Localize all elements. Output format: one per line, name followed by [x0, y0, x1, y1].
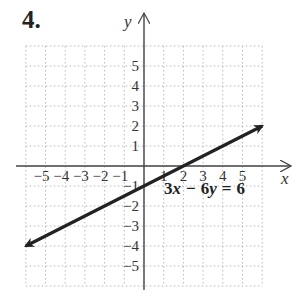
- y-tick-label: −5: [123, 258, 139, 274]
- y-tick-label: −4: [123, 238, 139, 254]
- y-axis-label: y: [122, 12, 132, 31]
- x-axis-label: x: [280, 169, 289, 188]
- axes: [16, 14, 290, 290]
- x-tick-label: −5: [34, 168, 50, 184]
- x-tick-label: −3: [73, 168, 89, 184]
- y-tick-label: 1: [132, 138, 140, 154]
- equation-label: 3x−6y=6: [164, 179, 245, 198]
- y-tick-label: 2: [132, 118, 140, 134]
- x-tick-label: −2: [93, 168, 109, 184]
- y-tick-label: 3: [132, 98, 140, 114]
- y-tick-label: −2: [123, 198, 139, 214]
- coordinate-plane: −5−4−3−2−11234554321−1−2−3−4−5 x y 3x−6y…: [0, 0, 303, 302]
- y-tick-label: 4: [132, 78, 140, 94]
- y-tick-label: −3: [123, 218, 139, 234]
- y-tick-label: 5: [132, 58, 140, 74]
- x-tick-label: −4: [53, 168, 69, 184]
